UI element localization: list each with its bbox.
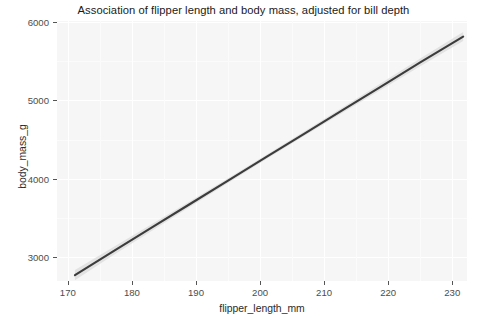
chart-title: Association of flipper length and body m… (0, 4, 487, 16)
x-tick-label: 210 (316, 287, 332, 298)
x-tick-label: 200 (252, 287, 268, 298)
y-tick-label: 4000 (28, 173, 49, 184)
trend-line (75, 37, 463, 276)
y-tick-label: 6000 (28, 17, 49, 28)
x-tick-label: 170 (60, 287, 76, 298)
geom-layer (57, 21, 467, 281)
x-tick-mark (196, 281, 197, 285)
x-tick-mark (260, 281, 261, 285)
y-tick-label: 3000 (28, 251, 49, 262)
y-tick-mark (53, 257, 57, 258)
x-tick-mark (452, 281, 453, 285)
y-tick-mark (53, 100, 57, 101)
x-tick-mark (388, 281, 389, 285)
y-tick-label: 5000 (28, 95, 49, 106)
x-tick-mark (324, 281, 325, 285)
x-tick-label: 180 (124, 287, 140, 298)
chart-canvas: Association of flipper length and body m… (0, 0, 487, 326)
x-tick-label: 230 (444, 287, 460, 298)
x-axis-title: flipper_length_mm (57, 303, 467, 314)
plot-panel (57, 21, 467, 281)
x-tick-mark (68, 281, 69, 285)
x-tick-label: 220 (380, 287, 396, 298)
y-tick-mark (53, 179, 57, 180)
y-axis-title: body_mass_g (17, 67, 28, 247)
x-tick-mark (132, 281, 133, 285)
y-tick-mark (53, 22, 57, 23)
x-tick-label: 190 (188, 287, 204, 298)
